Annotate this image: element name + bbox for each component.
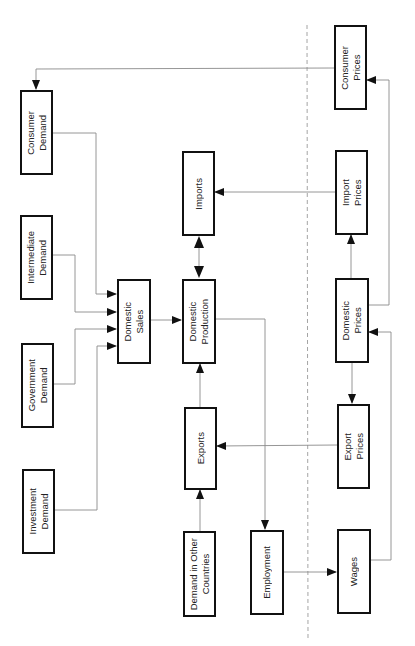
node-wages: Wages (337, 529, 371, 614)
node-demand-other-countries: Demand in Other Countries (183, 531, 216, 617)
node-domestic-production: Domestic Production (182, 279, 216, 364)
node-import-prices: Import Prices (335, 150, 368, 235)
node-label: Exports (195, 432, 207, 464)
node-label: Wages (348, 557, 360, 586)
node-exports: Exports (184, 407, 217, 490)
node-domestic-prices: Domestic Prices (335, 278, 369, 363)
node-label: Demand in Other Countries (188, 538, 212, 610)
node-label: Domestic Production (187, 299, 211, 344)
node-label: Employment (261, 546, 273, 599)
node-investment-demand: Investment Demand (22, 469, 55, 554)
arrowhead-down (194, 266, 204, 278)
node-label: Export Prices (342, 433, 366, 460)
node-label: Domestic Sales (122, 302, 146, 342)
node-imports: Imports (182, 151, 215, 236)
node-label: Government Demand (26, 359, 50, 411)
arrowhead-up (194, 236, 204, 248)
node-label: Consumer Prices (339, 46, 363, 90)
node-consumer-prices: Consumer Prices (334, 25, 367, 110)
node-label: Intermediate Demand (25, 231, 49, 284)
flow-diagram: Consumer Demand Intermediate Demand Gove… (0, 0, 415, 646)
node-employment: Employment (250, 530, 284, 615)
node-label: Consumer Demand (25, 111, 49, 155)
node-government-demand: Government Demand (21, 343, 54, 428)
node-export-prices: Export Prices (337, 404, 370, 489)
node-domestic-sales: Domestic Sales (117, 279, 151, 364)
dashed-divider (307, 25, 308, 640)
node-intermediate-demand: Intermediate Demand (20, 215, 53, 300)
node-label: Imports (193, 178, 205, 210)
node-label: Investment Demand (27, 488, 51, 534)
node-label: Domestic Prices (340, 301, 364, 341)
node-label: Import Prices (340, 179, 364, 206)
node-consumer-demand: Consumer Demand (20, 90, 53, 175)
